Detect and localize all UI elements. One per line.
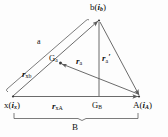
point-label-Ga: Ga	[49, 54, 58, 64]
label-vector-r-a: ra	[76, 57, 82, 67]
dot-vertex-A	[138, 95, 140, 97]
point-label-GB: GB	[92, 101, 102, 111]
r-xb-sub: xb	[26, 73, 32, 79]
r-a-prime-mark: ′	[108, 52, 110, 62]
paren-close-A: )	[149, 100, 152, 110]
vector-r-a	[62, 64, 138, 94]
dot-Ga	[59, 62, 62, 65]
r-a-sub: a	[80, 60, 83, 66]
vertex-label-b: b(ib)	[90, 3, 106, 13]
point-sub-GB: B	[98, 104, 102, 110]
paren-close-x: )	[17, 100, 20, 110]
brace-B	[14, 113, 138, 121]
vertex-label-A: A(iA)	[133, 101, 152, 111]
vertex-label-x: x(ix)	[4, 101, 20, 111]
label-span-B: B	[72, 123, 78, 132]
dot-vertex-x	[12, 95, 14, 97]
label-vector-r-a-prime: ra′	[102, 53, 111, 65]
label-vector-r-xA: rxA	[52, 102, 63, 112]
label-vector-r-xb: rxb	[22, 70, 31, 80]
dot-apex-b	[98, 19, 100, 21]
point-sub-Ga: a	[55, 57, 58, 63]
paren-close-b: )	[103, 2, 106, 12]
figure-canvas: b(ib) x(ix) A(iA) Ga GB a rxb ra ra′ rxA…	[0, 0, 168, 137]
label-side-a: a	[37, 38, 41, 46]
r-xA-sub: xA	[56, 105, 63, 111]
